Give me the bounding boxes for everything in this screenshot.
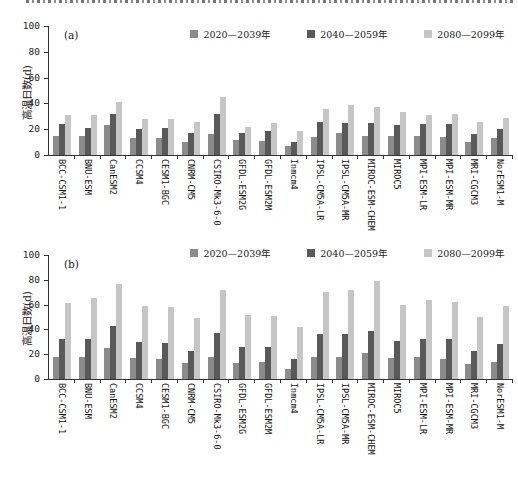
x-axis-label: CSIRO-Mk3-6-0 bbox=[212, 159, 221, 226]
x-axis-label: MIROC5 bbox=[392, 383, 401, 414]
x-axis-label: CSIRO-Mk3-6-0 bbox=[212, 383, 221, 450]
x-label-slot: BCC-CSM1-1 bbox=[48, 380, 74, 472]
x-axis-label: IPSL-CM5A-LR bbox=[315, 159, 324, 220]
bar bbox=[245, 127, 251, 155]
bar-group bbox=[462, 255, 488, 379]
x-axis-label: MIROC-ESM-CHEM bbox=[366, 159, 375, 231]
y-tick-label: 20 bbox=[29, 349, 40, 359]
x-axis-label: Inmcm4 bbox=[289, 159, 298, 190]
bar bbox=[116, 284, 122, 380]
x-label-slot: CCSM4 bbox=[125, 380, 151, 472]
y-tick-label: 0 bbox=[34, 150, 40, 160]
x-label-slot: BCC-CSM1-1 bbox=[48, 156, 74, 242]
x-label-slot: MRI-CGCM3 bbox=[461, 380, 487, 472]
bar-group bbox=[487, 255, 513, 379]
x-axis-label: BCC-CSM1-1 bbox=[57, 383, 66, 434]
bar-group bbox=[307, 255, 333, 379]
y-tick-mark bbox=[44, 255, 48, 256]
x-label-slot: IPSL-CM5A-MR bbox=[332, 156, 358, 242]
y-tick-mark bbox=[44, 280, 48, 281]
bar bbox=[142, 119, 148, 155]
x-tick-mark bbox=[512, 155, 513, 159]
bar-group bbox=[152, 26, 178, 155]
bar-group bbox=[436, 255, 462, 379]
y-tick-label: 100 bbox=[23, 250, 40, 260]
x-axis-label: CanESM2 bbox=[108, 159, 117, 195]
bar bbox=[297, 327, 303, 379]
bar-group bbox=[178, 255, 204, 379]
y-tick-label: 0 bbox=[34, 374, 40, 384]
bar bbox=[426, 115, 432, 155]
x-axis-label: IPSL-CM5A-MR bbox=[340, 159, 349, 220]
y-tick-mark bbox=[44, 305, 48, 306]
bar-group bbox=[384, 255, 410, 379]
cropped-caption-text bbox=[26, 0, 516, 3]
bar bbox=[220, 97, 226, 155]
x-axis-label: Inmcm4 bbox=[289, 383, 298, 414]
x-label-slot: MPI-ESM-MR bbox=[435, 380, 461, 472]
bar-group bbox=[358, 255, 384, 379]
x-label-slot: NorESM1-M bbox=[486, 380, 512, 472]
bar-group bbox=[307, 26, 333, 155]
y-axis-title: 高温日数(d) bbox=[0, 85, 15, 100]
bar-group bbox=[384, 26, 410, 155]
x-label-slot: CanESM2 bbox=[100, 156, 126, 242]
x-axis-label: GFDL-ESM2G bbox=[237, 383, 246, 434]
x-axis-label: IPSL-CM5A-LR bbox=[315, 383, 324, 444]
x-label-slot: CSIRO-Mk3-6-0 bbox=[203, 156, 229, 242]
x-axis-label: GFDL-ESM2M bbox=[263, 383, 272, 434]
bar bbox=[116, 102, 122, 155]
bar-group bbox=[333, 255, 359, 379]
bar-group bbox=[436, 26, 462, 155]
x-axis-labels-a: BCC-CSM1-1BNU-ESMCanESM2CCSM4CESM1-BGCCN… bbox=[48, 156, 512, 242]
x-label-slot: BNU-ESM bbox=[74, 380, 100, 472]
x-label-slot: CESM1-BGC bbox=[151, 156, 177, 242]
bar-group bbox=[410, 26, 436, 155]
bar-group bbox=[75, 26, 101, 155]
x-axis-label: CNRM-CM5 bbox=[186, 383, 195, 424]
y-tick-mark bbox=[44, 52, 48, 53]
x-label-slot: Inmcm4 bbox=[280, 380, 306, 472]
x-label-slot: GFDL-ESM2M bbox=[254, 380, 280, 472]
bar bbox=[168, 307, 174, 379]
chart-panel-a: (a)2020—2039年2040—2059年2080—2099年 BCC-CS… bbox=[0, 26, 518, 244]
y-tick-mark bbox=[44, 26, 48, 27]
x-axis-label: BNU-ESM bbox=[83, 383, 92, 419]
bar-group bbox=[152, 255, 178, 379]
bar bbox=[297, 131, 303, 156]
x-axis-label: MRI-CGCM3 bbox=[469, 383, 478, 429]
bar-group bbox=[255, 26, 281, 155]
x-axis-label: BCC-CSM1-1 bbox=[57, 159, 66, 210]
y-tick-mark bbox=[44, 78, 48, 79]
bar-group bbox=[49, 26, 75, 155]
bar-group bbox=[281, 255, 307, 379]
y-axis-ticks: 020406080100 bbox=[16, 255, 44, 379]
bar bbox=[348, 105, 354, 155]
bar-group bbox=[358, 26, 384, 155]
bar bbox=[245, 315, 251, 380]
y-tick-label: 100 bbox=[23, 21, 40, 31]
x-label-slot: GFDL-ESM2G bbox=[228, 156, 254, 242]
x-axis-label: IPSL-CM5A-MR bbox=[340, 383, 349, 444]
x-axis-label: NorESM1-M bbox=[495, 159, 504, 205]
x-axis-label: CNRM-CM5 bbox=[186, 159, 195, 200]
y-tick-mark bbox=[44, 329, 48, 330]
bar bbox=[323, 109, 329, 155]
bar bbox=[91, 298, 97, 379]
x-label-slot: GFDL-ESM2M bbox=[254, 156, 280, 242]
x-axis-label: MPI-ESM-MR bbox=[444, 383, 453, 434]
y-tick-label: 80 bbox=[29, 47, 40, 57]
x-axis-label: MRI-CGCM3 bbox=[469, 159, 478, 205]
bar-group bbox=[126, 255, 152, 379]
bar bbox=[220, 290, 226, 379]
x-label-slot: CESM1-BGC bbox=[151, 380, 177, 472]
x-axis-label: CCSM4 bbox=[134, 159, 143, 185]
bar-group bbox=[204, 255, 230, 379]
x-label-slot: IPSL-CM5A-LR bbox=[306, 380, 332, 472]
bar bbox=[142, 306, 148, 379]
bar bbox=[374, 281, 380, 379]
bar bbox=[323, 292, 329, 379]
x-label-slot: MPI-ESM-MR bbox=[435, 156, 461, 242]
bar bbox=[194, 122, 200, 156]
x-label-slot: IPSL-CM5A-LR bbox=[306, 156, 332, 242]
